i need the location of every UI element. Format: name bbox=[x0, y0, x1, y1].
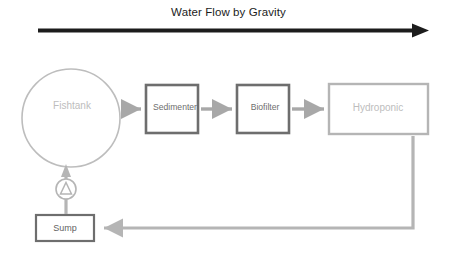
fishtank-node bbox=[22, 69, 120, 167]
sedimenter-node bbox=[146, 85, 198, 133]
diagram-canvas bbox=[0, 0, 457, 255]
hydroponic-node bbox=[329, 84, 428, 134]
biofilter-node bbox=[237, 85, 289, 133]
sump-node bbox=[36, 215, 94, 241]
gravity-flow-arrow bbox=[38, 24, 429, 38]
connector-hydroponic-sump bbox=[104, 136, 413, 228]
pump-icon bbox=[56, 179, 76, 199]
aquaponics-flow-diagram: Water Flow by Gravity bbox=[0, 0, 457, 255]
